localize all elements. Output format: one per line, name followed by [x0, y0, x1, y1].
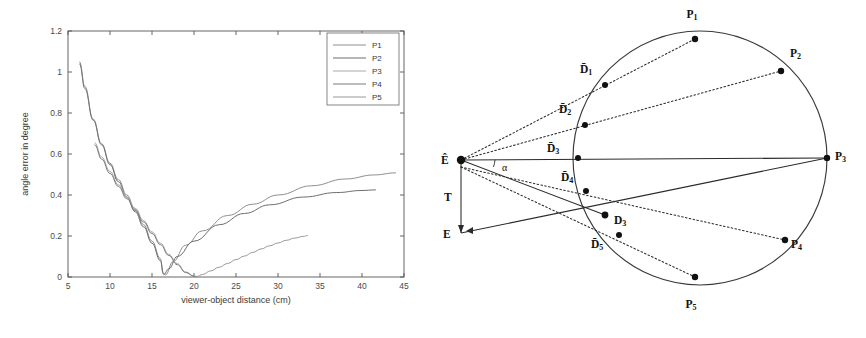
legend-box [327, 33, 399, 105]
dot-d3bar [575, 155, 581, 161]
label-d4: D̄4 [561, 171, 573, 185]
viewing-geometry-diagram: P1P2P3P4P5D̄1D̄2D̄3D̄4D3D̄5ÊETα [433, 0, 866, 338]
angle-error-line-chart: 51015202530354045 00.20.40.60.811.2 view… [0, 0, 433, 338]
label-d3: D3 [614, 214, 626, 228]
legend-label-p4[interactable]: P4 [372, 80, 382, 89]
series-line-p5 [197, 236, 307, 277]
x-tick-label: 5 [66, 281, 71, 291]
label-translation: T [444, 191, 452, 203]
ray-ehat-d3 [461, 160, 605, 215]
y-tick-label: 0.4 [50, 190, 62, 200]
y-axis-tick-labels: 00.20.40.60.811.2 [50, 26, 62, 282]
x-tick-label: 10 [105, 281, 115, 291]
dot-p4 [782, 237, 788, 243]
chart-legend: P1P2P3P4P5 [327, 33, 399, 105]
label-d5: D̄5 [591, 238, 603, 252]
figure-container: 51015202530354045 00.20.40.60.811.2 view… [0, 0, 866, 338]
y-axis-label: angle error in degree [20, 112, 30, 196]
ray-ehat-p4 [461, 167, 785, 240]
label-p1: P1 [686, 8, 697, 22]
x-tick-label: 40 [357, 281, 367, 291]
y-tick-label: 0.8 [50, 108, 62, 118]
label-alpha-angle: α [502, 162, 508, 173]
translation-arrowhead [458, 225, 464, 233]
label-estimated-eye: Ê [441, 153, 449, 166]
viewing-geometry-panel: P1P2P3P4P5D̄1D̄2D̄3D̄4D3D̄5ÊETα [433, 0, 866, 338]
dot-p2 [778, 68, 784, 74]
y-tick-label: 0.6 [50, 149, 62, 159]
ray-e-p3 [461, 158, 827, 233]
legend-label-p5[interactable]: P5 [372, 93, 382, 102]
legend-label-p3[interactable]: P3 [372, 67, 382, 76]
ray-ehat-p1 [461, 39, 695, 160]
label-p4: P4 [791, 238, 802, 252]
y-tick-label: 1.2 [50, 26, 62, 36]
x-axis-tick-labels: 51015202530354045 [66, 281, 409, 291]
dot-d5bar [616, 232, 622, 238]
ray-ehat-p2 [461, 71, 781, 160]
y-tick-label: 0 [57, 272, 62, 282]
label-d2: D̄2 [559, 103, 571, 117]
x-tick-label: 15 [147, 281, 157, 291]
alpha-angle-arc [494, 160, 496, 167]
ray-ehat-p5 [461, 167, 695, 277]
x-tick-label: 25 [231, 281, 241, 291]
x-tick-label: 20 [189, 281, 199, 291]
x-axis-label: viewer-object distance (cm) [181, 295, 291, 305]
label-p5: P5 [685, 298, 696, 312]
dot-p3 [824, 155, 830, 161]
label-p2: P2 [790, 47, 801, 61]
legend-label-p1[interactable]: P1 [372, 41, 382, 50]
angle-error-plot-panel: 51015202530354045 00.20.40.60.811.2 view… [0, 0, 433, 338]
legend-label-p2[interactable]: P2 [372, 54, 382, 63]
dot-p5 [692, 274, 698, 280]
dot-d2bar [582, 122, 588, 128]
label-d1: D̄1 [580, 63, 592, 77]
ray-ehat-p3 [461, 158, 827, 160]
dot-d3 [602, 212, 609, 219]
ray-arrowhead [466, 227, 473, 234]
label-true-eye: E [443, 228, 451, 240]
x-tick-label: 35 [315, 281, 325, 291]
dot-d4bar [583, 188, 589, 194]
label-p3: P3 [835, 150, 846, 164]
y-tick-label: 1 [57, 67, 62, 77]
dot-p1 [692, 36, 698, 42]
label-d3bar: D̄3 [547, 142, 559, 156]
y-tick-label: 0.2 [50, 231, 62, 241]
x-tick-label: 45 [399, 281, 409, 291]
x-tick-label: 30 [273, 281, 283, 291]
solid-ray-group [458, 158, 827, 234]
dot-estimated-eye [457, 156, 465, 164]
dot-d1bar [602, 82, 608, 88]
